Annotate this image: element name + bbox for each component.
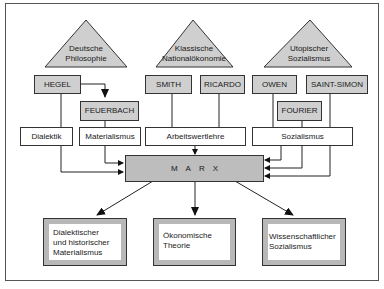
node-hegel: HEGEL: [34, 75, 81, 94]
node-feuerbach: FEUERBACH: [80, 101, 139, 121]
outcome-label-line: und historischer: [53, 238, 117, 248]
outcome-label-line: Dialektischer: [53, 228, 117, 238]
source-utopischer-sozialismus: Utopischer Sozialismus: [288, 44, 331, 64]
node-materialismus: Materialismus: [79, 127, 141, 146]
outcome-label-line: Wissenschaftlicher: [269, 232, 339, 242]
node-smith: SMITH: [145, 75, 192, 94]
outcome-label: Dialektischer und historischer Materiali…: [49, 224, 121, 260]
node-saint-simon: SAINT-SIMON: [306, 75, 368, 94]
source-label-line: Philosophie: [65, 54, 106, 64]
source-klassische-nationaloekonomie: Klassische Nationalökonomie: [162, 44, 226, 64]
node-sozialismus: Sozialismus: [252, 127, 353, 146]
node-fourier: FOURIER: [277, 101, 322, 121]
source-deutsche-philosophie: Deutsche Philosophie: [65, 44, 106, 64]
outcome-label: Wissenschaftlicher Sozialismus: [268, 224, 340, 260]
outcome-label: Ökonomische Theorie: [159, 224, 230, 260]
node-dialektik: Dialektik: [20, 127, 73, 146]
node-ricardo: RICARDO: [200, 75, 245, 94]
source-label-line: Klassische: [162, 44, 226, 54]
outcome-label-line: Theorie: [163, 241, 226, 251]
source-label-line: Sozialismus: [288, 54, 331, 64]
outcome-wissenschaftlicher-sozialismus: Wissenschaftlicher Sozialismus: [262, 218, 346, 266]
source-label-line: Deutsche: [65, 44, 106, 54]
outcome-dialektischer-materialismus: Dialektischer und historischer Materiali…: [43, 218, 127, 266]
node-marx: MARX: [125, 155, 264, 182]
outcome-label-line: Ökonomische: [163, 231, 226, 241]
source-label-line: Utopischer: [288, 44, 331, 54]
source-label-line: Nationalökonomie: [162, 54, 226, 64]
outcome-oekonomische-theorie: Ökonomische Theorie: [153, 218, 236, 266]
outcome-label-line: Sozialismus: [269, 242, 339, 252]
outcome-label-line: Materialismus: [53, 248, 117, 258]
node-owen: OWEN: [252, 75, 297, 94]
node-arbeitswertlehre: Arbeitswertlehre: [145, 127, 246, 146]
